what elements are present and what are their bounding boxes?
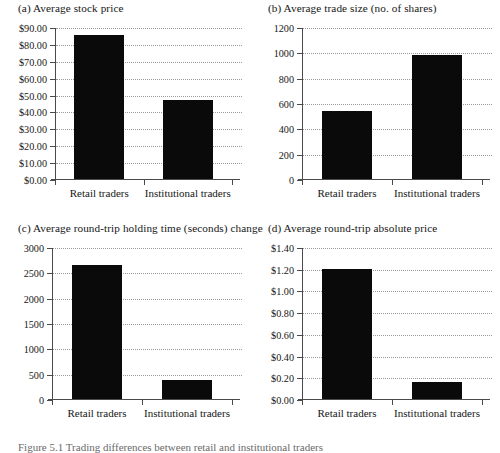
y-axis-label: $80.00 xyxy=(19,39,47,50)
x-axis-category-label: Retail traders xyxy=(68,407,127,419)
y-axis-label: 2000 xyxy=(24,293,44,304)
y-axis-label: $50.00 xyxy=(19,90,47,101)
bar xyxy=(72,265,122,399)
x-axis-category-label: Retail traders xyxy=(318,187,377,199)
y-axis-label: $60.00 xyxy=(19,73,47,84)
bar xyxy=(322,269,372,399)
bar xyxy=(412,55,462,179)
y-axis-label: $0.20 xyxy=(271,373,294,384)
y-axis-label: 600 xyxy=(279,99,294,110)
x-axis-category-label: Retail traders xyxy=(70,187,129,199)
panel-b: (b) Average trade size (no. of shares) 0… xyxy=(250,0,500,215)
y-axis-label: 400 xyxy=(279,124,294,135)
x-axis-category-label: Retail traders xyxy=(318,407,377,419)
x-axis-tick xyxy=(232,180,233,185)
y-axis-line xyxy=(52,248,53,400)
y-axis-line xyxy=(302,248,303,400)
gridline xyxy=(303,248,492,249)
panel-c-plot: 050010001500200025003000Retail tradersIn… xyxy=(52,248,232,400)
y-axis-line xyxy=(55,28,56,180)
y-axis-label: $1.20 xyxy=(271,264,294,275)
y-axis-label: $1.40 xyxy=(271,243,294,254)
x-axis-category-label: Institutional traders xyxy=(145,187,231,199)
panel-c-title: (c) Average round-trip holding time (sec… xyxy=(18,222,263,234)
y-axis-label: $70.00 xyxy=(19,56,47,67)
gridline xyxy=(303,28,492,29)
y-axis-label: $0.80 xyxy=(271,308,294,319)
x-axis-category-label: Institutional traders xyxy=(394,407,480,419)
x-axis-tick xyxy=(302,180,303,185)
bar xyxy=(163,100,213,179)
x-axis-tick xyxy=(55,180,56,185)
figure-container: (a) Average stock price $0.00$10.00$20.0… xyxy=(0,0,500,453)
bar xyxy=(162,380,212,399)
y-axis-label: $40.00 xyxy=(19,107,47,118)
panel-a-title: (a) Average stock price xyxy=(18,2,124,14)
y-axis-line xyxy=(302,28,303,180)
x-axis-tick xyxy=(392,400,393,405)
gridline xyxy=(303,53,492,54)
panel-c: (c) Average round-trip holding time (sec… xyxy=(0,220,250,435)
panel-d: (d) Average round-trip absolute price $0… xyxy=(250,220,500,435)
y-axis-label: $90.00 xyxy=(19,23,47,34)
gridline xyxy=(56,28,242,29)
bar xyxy=(74,35,124,179)
y-axis-label: $10.00 xyxy=(19,158,47,169)
panel-b-plot: 020040060080010001200Retail tradersInsti… xyxy=(302,28,482,180)
y-axis-label: $0.00 xyxy=(271,395,294,406)
x-axis-tick xyxy=(482,180,483,185)
y-axis-label: 1000 xyxy=(274,48,294,59)
bar xyxy=(412,382,462,399)
x-axis-tick xyxy=(144,180,145,185)
x-axis-tick xyxy=(302,400,303,405)
y-axis-label: $0.60 xyxy=(271,329,294,340)
y-axis-label: 2500 xyxy=(24,268,44,279)
panel-d-title: (d) Average round-trip absolute price xyxy=(268,222,437,234)
y-axis-label: 1200 xyxy=(274,23,294,34)
gridline xyxy=(53,248,242,249)
y-axis-label: $0.00 xyxy=(24,175,47,186)
panel-a-plot: $0.00$10.00$20.00$30.00$40.00$50.00$60.0… xyxy=(55,28,232,180)
y-axis-label: $30.00 xyxy=(19,124,47,135)
y-axis-label: $20.00 xyxy=(19,141,47,152)
figure-caption: Figure 5.1 Trading differences between r… xyxy=(18,441,488,453)
y-axis-label: 3000 xyxy=(24,243,44,254)
gridline xyxy=(303,104,492,105)
panel-b-title: (b) Average trade size (no. of shares) xyxy=(268,2,437,14)
x-axis-tick xyxy=(52,400,53,405)
panel-d-plot: $0.00$0.20$0.40$0.60$0.80$1.00$1.20$1.40… xyxy=(302,248,482,400)
panel-a: (a) Average stock price $0.00$10.00$20.0… xyxy=(0,0,250,215)
y-axis-label: $0.40 xyxy=(271,351,294,362)
x-axis-tick xyxy=(232,400,233,405)
x-axis-tick xyxy=(392,180,393,185)
gridline xyxy=(303,79,492,80)
x-axis-tick xyxy=(482,400,483,405)
y-axis-label: 1000 xyxy=(24,344,44,355)
y-axis-label: 500 xyxy=(29,369,44,380)
x-axis-category-label: Institutional traders xyxy=(394,187,480,199)
y-axis-label: 800 xyxy=(279,73,294,84)
x-axis-tick xyxy=(142,400,143,405)
y-axis-label: 0 xyxy=(289,175,294,186)
y-axis-label: 0 xyxy=(39,395,44,406)
x-axis-category-label: Institutional traders xyxy=(144,407,230,419)
bar xyxy=(322,111,372,179)
y-axis-label: 200 xyxy=(279,149,294,160)
y-axis-label: 1500 xyxy=(24,319,44,330)
y-axis-label: $1.00 xyxy=(271,286,294,297)
